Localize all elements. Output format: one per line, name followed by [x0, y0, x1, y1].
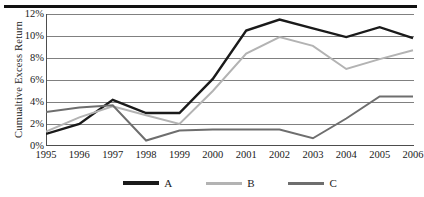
y-tick-label: 10%	[25, 31, 44, 42]
legend-item-b: B	[206, 178, 254, 189]
x-axis-tick-labels: 1995199619971998199920002001200220032004…	[46, 150, 414, 166]
x-tick-label: 2002	[269, 150, 290, 161]
y-tick-label: 4%	[30, 97, 44, 108]
plot-area	[46, 14, 414, 146]
series-line-c	[46, 97, 413, 141]
x-tick-label: 1996	[69, 150, 90, 161]
y-tick-label: 12%	[25, 9, 44, 20]
legend-item-c: C	[288, 178, 336, 189]
x-tick-label: 2003	[302, 150, 323, 161]
chart-legend: ABC	[46, 174, 414, 192]
x-tick-label: 2004	[336, 150, 357, 161]
x-tick-label: 2006	[403, 150, 424, 161]
series-line-b	[46, 37, 413, 132]
y-tick-label: 6%	[30, 75, 44, 86]
x-tick-label: 1997	[102, 150, 123, 161]
legend-label-b: B	[247, 178, 254, 189]
legend-item-a: A	[123, 178, 172, 189]
legend-label-a: A	[164, 178, 172, 189]
legend-swatch-c	[288, 182, 324, 185]
y-axis-tick-labels: 0%2%4%6%8%10%12%	[14, 14, 44, 146]
legend-label-c: C	[329, 178, 336, 189]
x-tick-label: 2000	[202, 150, 223, 161]
x-tick-label: 1998	[136, 150, 157, 161]
x-tick-label: 2001	[236, 150, 257, 161]
x-tick-label: 2005	[369, 150, 390, 161]
x-tick-label: 1999	[169, 150, 190, 161]
y-tick-label: 2%	[30, 119, 44, 130]
x-tick-label: 1995	[36, 150, 57, 161]
y-tick-label: 8%	[30, 53, 44, 64]
top-horizontal-rule	[4, 5, 417, 8]
legend-swatch-b	[206, 182, 242, 185]
line-chart-svg	[46, 14, 414, 146]
legend-swatch-a	[123, 181, 159, 185]
